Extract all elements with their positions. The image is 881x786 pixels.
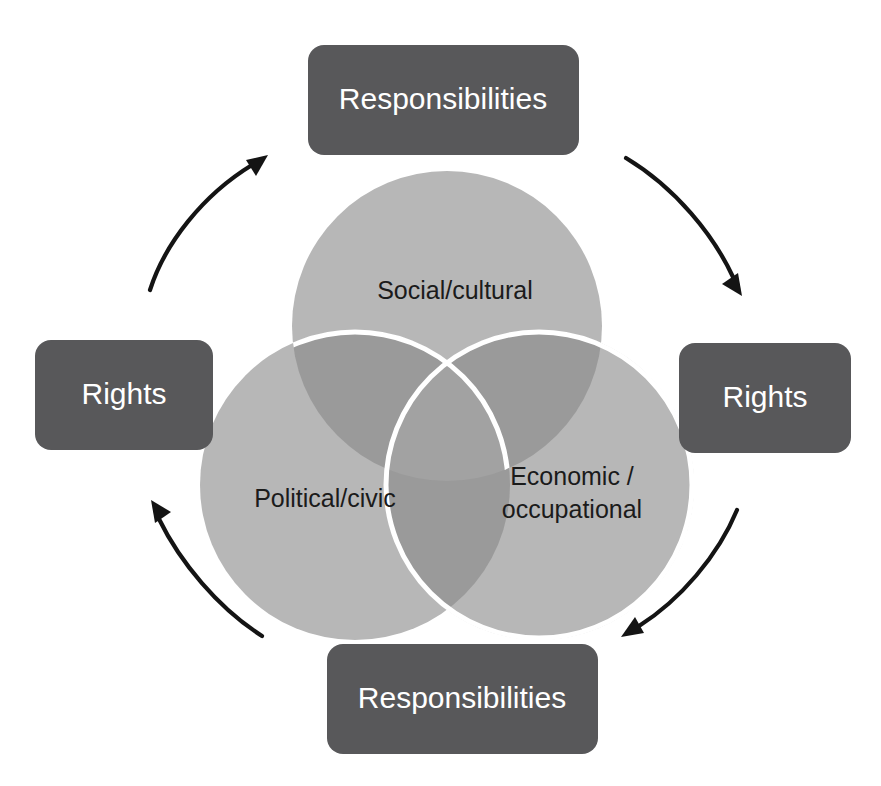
curved-arrow-icon <box>626 158 733 277</box>
node-right[interactable]: Rights <box>679 343 851 453</box>
venn-diagram: Social/cultural Political/civic Economic… <box>200 171 694 640</box>
node-bottom-label: Responsibilities <box>358 681 566 714</box>
node-top-label: Responsibilities <box>339 82 547 115</box>
arrow-left-to-top <box>150 155 268 290</box>
node-right-label: Rights <box>722 380 807 413</box>
node-left[interactable]: Rights <box>35 340 213 450</box>
venn-label-economic-line1: Economic / <box>510 462 634 490</box>
arrow-head-icon <box>621 617 644 637</box>
node-top[interactable]: Responsibilities <box>308 45 579 155</box>
diagram-canvas: Social/cultural Political/civic Economic… <box>0 0 881 786</box>
curved-arrow-icon <box>150 165 252 290</box>
venn-label-political: Political/civic <box>254 484 396 512</box>
node-bottom[interactable]: Responsibilities <box>327 644 598 754</box>
node-left-label: Rights <box>81 377 166 410</box>
citizenship-cycle-diagram: Social/cultural Political/civic Economic… <box>0 0 881 786</box>
venn-label-social: Social/cultural <box>377 276 533 304</box>
arrow-top-to-right <box>626 158 742 296</box>
venn-label-economic-line2: occupational <box>502 495 642 523</box>
